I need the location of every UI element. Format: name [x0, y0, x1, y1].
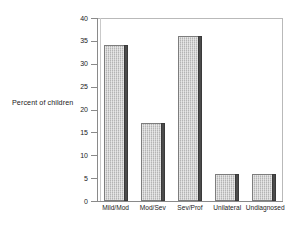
y-tick-mark	[91, 110, 97, 111]
y-tick-label: 20	[68, 106, 88, 113]
y-tick-mark	[91, 155, 97, 156]
y-tick-mark	[91, 41, 97, 42]
bar-chart-figure: Percent of children 0510152025303540 Mil…	[0, 0, 298, 225]
x-tick-label: Undiagnosed	[246, 205, 283, 212]
y-tick-mark	[91, 87, 97, 88]
y-tick-label: 30	[68, 60, 88, 67]
y-tick-label: 10	[68, 152, 88, 159]
y-axis-spine	[97, 18, 98, 201]
y-tick-label: 25	[68, 83, 88, 90]
y-tick-label: 5	[68, 175, 88, 182]
x-axis-spine	[97, 201, 283, 202]
y-tick-mark	[91, 132, 97, 133]
y-tick-label: 35	[68, 37, 88, 44]
y-tick-mark	[91, 178, 97, 179]
y-tick-mark	[91, 64, 97, 65]
bar-shadow-edge	[124, 45, 128, 201]
bar	[104, 45, 128, 201]
bar	[141, 123, 165, 201]
y-axis-inner-line	[100, 18, 101, 201]
bar	[178, 36, 202, 201]
bar-shadow-edge	[198, 36, 202, 201]
bar-shadow-edge	[235, 174, 239, 201]
bar	[252, 174, 276, 201]
x-tick-label: Mild/Mod	[97, 205, 134, 212]
y-tick-mark	[91, 201, 97, 202]
y-tick-label: 0	[68, 198, 88, 205]
x-tick-label: Mod/Sev	[134, 205, 171, 212]
bar	[215, 174, 239, 201]
y-tick-label: 15	[68, 129, 88, 136]
bar-shadow-edge	[272, 174, 276, 201]
x-tick-label: Unilateral	[209, 205, 246, 212]
y-tick-label: 40	[68, 15, 88, 22]
bar-shadow-edge	[161, 123, 165, 201]
x-tick-label: Sev/Prof	[171, 205, 208, 212]
y-tick-mark	[91, 18, 97, 19]
